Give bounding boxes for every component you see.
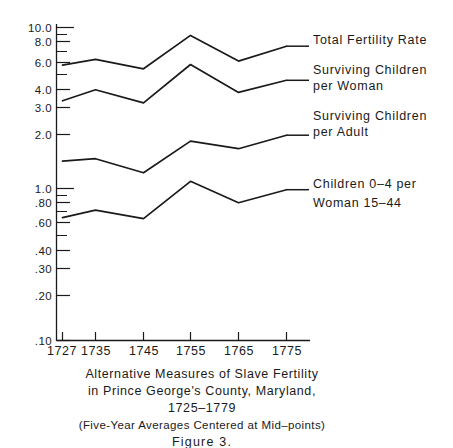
x-tick-label: 1745 [129, 344, 159, 358]
series-label-line: Surviving Children [313, 63, 427, 77]
series-lines [63, 35, 287, 218]
caption-line: in Prince George's County, Maryland, [88, 384, 316, 398]
caption-line: 1725–1779 [168, 401, 236, 415]
y-tick-label: 4.0 [35, 84, 52, 96]
x-axis-tick-labels: 1727 1735 1745 1755 1765 1775 [47, 344, 302, 358]
x-tick-label: 1775 [272, 344, 302, 358]
x-tick-label: 1727 [47, 344, 77, 358]
series-line-surviving-children-per-adult [63, 135, 287, 173]
y-tick-label: 10.0 [28, 22, 52, 34]
y-tick-label: .40 [35, 245, 52, 257]
x-tick-label: 1765 [224, 344, 254, 358]
y-tick-label: .80 [35, 197, 52, 209]
x-tick-label: 1755 [176, 344, 206, 358]
chart-canvas: 10.0 8.0 6.0 4.0 3.0 2.0 1.0 .80 .60 .40… [0, 0, 453, 448]
y-axis-tick-labels: 10.0 8.0 6.0 4.0 3.0 2.0 1.0 .80 .60 .40… [28, 22, 52, 347]
y-tick-label: 3.0 [35, 102, 52, 114]
series-label-children-0-4-per-woman-15-44: Children 0–4 per Woman 15–44 [313, 177, 417, 210]
series-label-line: Total Fertility Rate [313, 33, 427, 47]
series-label-surviving-children-per-adult: Surviving Children per Adult [313, 109, 427, 139]
caption-note: (Five-Year Averages Centered at Mid–poin… [79, 419, 326, 431]
y-tick-label: 2.0 [35, 129, 52, 141]
series-line-children-0-4-per-woman-15-44 [63, 181, 287, 218]
series-label-total-fertility-rate: Total Fertility Rate [313, 33, 427, 47]
series-label-line: per Adult [313, 125, 369, 139]
figure-caption: Alternative Measures of Slave Fertility … [79, 367, 326, 431]
series-label-line: per Woman [313, 79, 384, 93]
y-tick-label: .30 [35, 263, 52, 275]
figure-container: 10.0 8.0 6.0 4.0 3.0 2.0 1.0 .80 .60 .40… [0, 0, 453, 448]
y-tick-label: 8.0 [35, 36, 52, 48]
series-line-total-fertility-rate [63, 35, 287, 68]
series-label-line: Children 0–4 per [313, 177, 417, 191]
x-tick-label: 1735 [81, 344, 111, 358]
series-label-surviving-children-per-woman: Surviving Children per Woman [313, 63, 427, 93]
x-axis-ticks [63, 332, 287, 341]
series-label-line: Surviving Children [313, 109, 427, 123]
y-tick-label: 1.0 [35, 183, 52, 195]
figure-number: Figure 3. [172, 435, 232, 448]
series-label-leaders [287, 46, 310, 190]
series-label-line: Woman 15–44 [313, 196, 402, 210]
series-line-surviving-children-per-woman [63, 65, 287, 103]
y-tick-label: 6.0 [35, 57, 52, 69]
caption-line: Alternative Measures of Slave Fertility [85, 367, 318, 381]
y-tick-label: .60 [35, 217, 52, 229]
y-tick-label: .20 [35, 290, 52, 302]
